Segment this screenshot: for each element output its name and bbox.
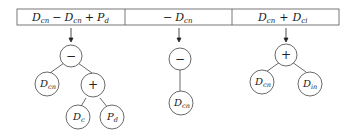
svg-text:+: + (281, 48, 291, 62)
arrow-down-icon (284, 38, 288, 42)
expression-tree-diagram: Dcn−Dcn+Pd −Dcn Dcn+Dci − Dcn + Dc (0, 0, 356, 136)
svg-text:−: − (66, 49, 76, 63)
arrows (69, 28, 288, 42)
svg-text:+: + (88, 78, 98, 92)
tree-col3: + Dcn Din (250, 44, 322, 96)
arrow-down-icon (177, 38, 181, 42)
tree-col2: − Dcn (169, 48, 193, 115)
svg-text:−: − (175, 52, 185, 66)
tree-col1: − Dcn + Dc Pd (35, 45, 124, 129)
expression-col3: Dcn+Dci (257, 11, 307, 25)
arrow-down-icon (69, 38, 73, 42)
